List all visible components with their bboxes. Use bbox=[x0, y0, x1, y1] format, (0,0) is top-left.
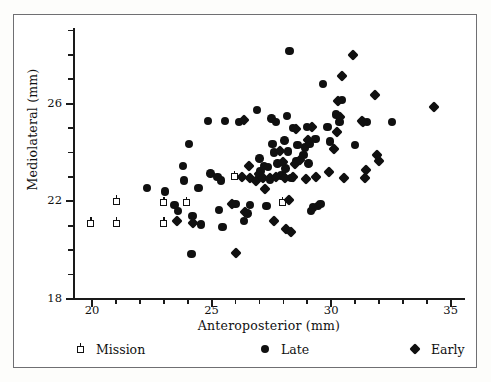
x-tick-minor bbox=[283, 299, 285, 304]
legend-item-late[interactable]: Late bbox=[258, 336, 309, 362]
data-point-late bbox=[316, 200, 325, 209]
legend-marker-glyph bbox=[261, 345, 270, 354]
data-point-late bbox=[187, 250, 196, 259]
x-tick-label: 30 bbox=[311, 303, 351, 317]
x-tick-minor bbox=[139, 299, 141, 304]
x-tick-minor bbox=[402, 299, 404, 304]
data-point-late bbox=[268, 140, 277, 149]
x-tick-minor bbox=[163, 299, 165, 304]
x-tick-minor bbox=[426, 299, 428, 304]
open-square-pin-icon bbox=[73, 342, 87, 356]
y-tick-label: 26 bbox=[36, 96, 62, 110]
legend-item-mission[interactable]: Mission bbox=[73, 336, 145, 362]
data-point-late bbox=[285, 47, 294, 56]
data-point-late bbox=[221, 117, 230, 126]
legend-label: Mission bbox=[96, 342, 145, 357]
x-axis-title: Anteroposterior (mm) bbox=[73, 318, 465, 333]
x-tick-minor bbox=[187, 299, 189, 304]
data-point-mission bbox=[87, 220, 94, 227]
legend-item-early[interactable]: Early bbox=[408, 336, 465, 362]
data-point-late bbox=[323, 123, 332, 132]
x-tick-minor bbox=[235, 299, 237, 304]
legend-label: Late bbox=[281, 342, 309, 357]
data-point-late bbox=[304, 159, 313, 168]
filled-diamond-icon bbox=[408, 342, 422, 356]
x-tick-label: 20 bbox=[72, 303, 112, 317]
data-point-late bbox=[161, 187, 170, 196]
x-tick-minor bbox=[354, 299, 356, 304]
x-tick-minor bbox=[115, 299, 117, 304]
legend-marker-glyph bbox=[77, 346, 84, 353]
data-point-late bbox=[215, 206, 224, 215]
data-point-mission bbox=[183, 199, 190, 206]
x-tick-minor bbox=[378, 299, 380, 304]
legend-marker-glyph bbox=[409, 343, 420, 354]
x-tick-label: 25 bbox=[192, 303, 232, 317]
x-tick-minor bbox=[306, 299, 308, 304]
scatter-plot-figure: Mediolateral (mm) Anteroposterior (mm) M… bbox=[0, 0, 491, 382]
x-tick-label: 35 bbox=[431, 303, 471, 317]
legend-label: Early bbox=[431, 342, 465, 357]
data-point-mission bbox=[113, 220, 120, 227]
data-point-late bbox=[218, 223, 227, 232]
data-point-mission bbox=[113, 198, 120, 205]
y-tick-label: 22 bbox=[36, 193, 62, 207]
filled-circle-icon bbox=[258, 342, 272, 356]
x-tick-minor bbox=[259, 299, 261, 304]
data-point-mission bbox=[160, 220, 167, 227]
data-point-late bbox=[280, 136, 289, 145]
data-point-late bbox=[194, 184, 203, 193]
data-point-mission bbox=[160, 199, 167, 206]
y-tick-label: 18 bbox=[36, 291, 62, 305]
chart-legend: MissionLateEarly bbox=[13, 336, 477, 366]
